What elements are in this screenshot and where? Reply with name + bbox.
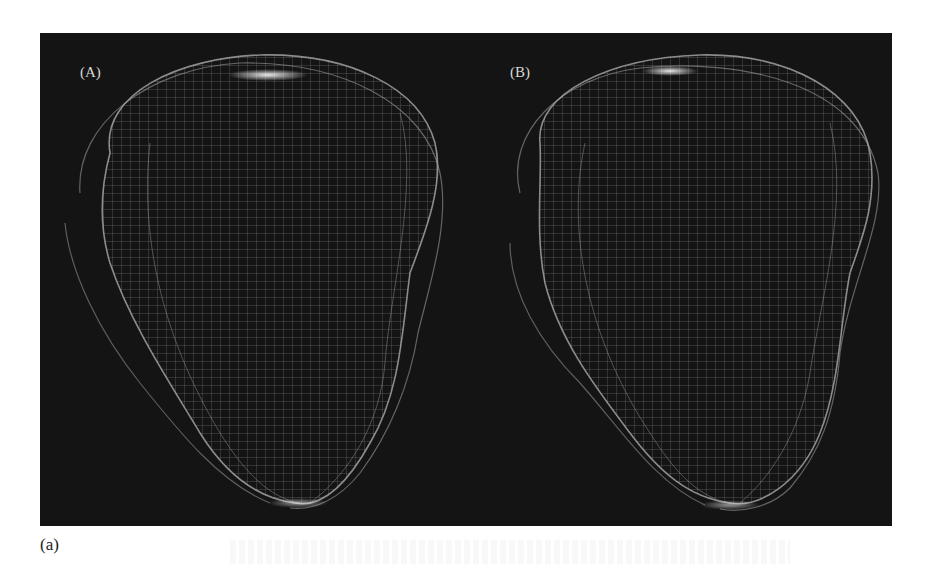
figure-panel: (A) (B) [40, 33, 892, 526]
mesh-b [510, 43, 890, 523]
mesh-a [65, 43, 460, 523]
panel-label-b: (B) [510, 64, 530, 81]
subfigure-caption: (a) [40, 535, 59, 555]
panel-label-a: (A) [80, 64, 101, 81]
bleed-through-text [230, 540, 790, 564]
wireframe-meshes [40, 33, 892, 526]
